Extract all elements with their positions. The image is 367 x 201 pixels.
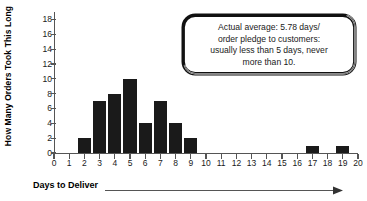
callout-text: Actual average: 5.78 days/ order pledge … <box>189 22 349 68</box>
x-tick-mark <box>297 154 298 159</box>
callout-line-3: usually less than 5 days, never <box>189 45 349 57</box>
x-tick-label: 16 <box>289 158 305 168</box>
x-tick-mark <box>99 154 100 159</box>
x-axis-arrow-icon <box>105 186 343 195</box>
bar <box>184 138 197 153</box>
bar <box>336 146 349 153</box>
x-axis-title: Days to Deliver <box>33 180 98 190</box>
x-tick-label: 15 <box>274 158 290 168</box>
bar <box>139 123 152 153</box>
x-tick-label: 1 <box>61 158 77 168</box>
x-tick-label: 11 <box>213 158 229 168</box>
x-tick-mark <box>342 154 343 159</box>
bar <box>93 101 106 153</box>
bar <box>78 138 91 153</box>
callout-line-1: Actual average: 5.78 days/ <box>189 22 349 34</box>
x-tick-label: 9 <box>183 158 199 168</box>
x-tick-mark <box>236 154 237 159</box>
average-callout: Actual average: 5.78 days/ order pledge … <box>181 13 357 76</box>
y-axis-title: How Many Orders Took This Long <box>0 0 16 152</box>
bar <box>169 123 182 153</box>
x-tick-mark <box>312 154 313 159</box>
x-tick-mark <box>251 154 252 159</box>
x-tick-label: 17 <box>304 158 320 168</box>
callout-line-4: more than 10. <box>189 57 349 69</box>
x-tick-mark <box>145 154 146 159</box>
x-tick-label: 2 <box>76 158 92 168</box>
delivery-time-histogram: How Many Orders Took This Long 024681012… <box>0 0 367 201</box>
x-tick-mark <box>205 154 206 159</box>
x-tick-mark <box>357 154 358 159</box>
x-tick-mark <box>160 154 161 159</box>
x-tick-label: 5 <box>122 158 138 168</box>
x-tick-mark <box>281 154 282 159</box>
y-axis-title-label: How Many Orders Took This Long <box>3 6 13 146</box>
x-tick-mark <box>53 154 54 159</box>
x-tick-label: 12 <box>228 158 244 168</box>
x-tick-mark <box>327 154 328 159</box>
x-tick-label: 14 <box>259 158 275 168</box>
x-tick-mark <box>114 154 115 159</box>
x-tick-label: 3 <box>92 158 108 168</box>
bar <box>154 101 167 153</box>
x-tick-label: 19 <box>335 158 351 168</box>
x-tick-mark <box>69 154 70 159</box>
x-tick-mark <box>221 154 222 159</box>
x-tick-label: 10 <box>198 158 214 168</box>
x-tick-label: 18 <box>320 158 336 168</box>
x-tick-mark <box>175 154 176 159</box>
x-tick-mark <box>190 154 191 159</box>
x-tick-label: 8 <box>168 158 184 168</box>
x-tick-label: 20 <box>350 158 366 168</box>
x-tick-label: 7 <box>152 158 168 168</box>
x-tick-label: 6 <box>137 158 153 168</box>
x-tick-label: 13 <box>244 158 260 168</box>
x-tick-mark <box>266 154 267 159</box>
x-tick-label: 4 <box>107 158 123 168</box>
bar <box>108 94 121 153</box>
bar <box>123 79 136 153</box>
callout-line-2: order pledge to customers: <box>189 34 349 46</box>
x-tick-mark <box>84 154 85 159</box>
x-tick-label: 0 <box>46 158 62 168</box>
bar <box>306 146 319 153</box>
x-tick-mark <box>129 154 130 159</box>
